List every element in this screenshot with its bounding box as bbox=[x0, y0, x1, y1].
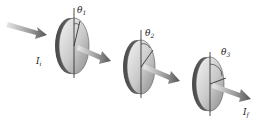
output-intensity-label: If bbox=[242, 107, 251, 119]
polarizer-1 bbox=[55, 8, 89, 78]
polarizer-3 bbox=[192, 52, 226, 116]
polarizer-1-angle-label: θ1 bbox=[77, 5, 86, 16]
incoming-light-arrow bbox=[6, 22, 47, 39]
polarizer-3-angle-label: θ3 bbox=[221, 47, 230, 58]
input-intensity-label: Ii bbox=[35, 56, 42, 67]
polarizer-2-angle-label: θ2 bbox=[145, 28, 154, 39]
polarizer-2 bbox=[123, 30, 155, 98]
polarizer-diagram: θ1 θ2 θ3 Ii If bbox=[0, 0, 264, 124]
